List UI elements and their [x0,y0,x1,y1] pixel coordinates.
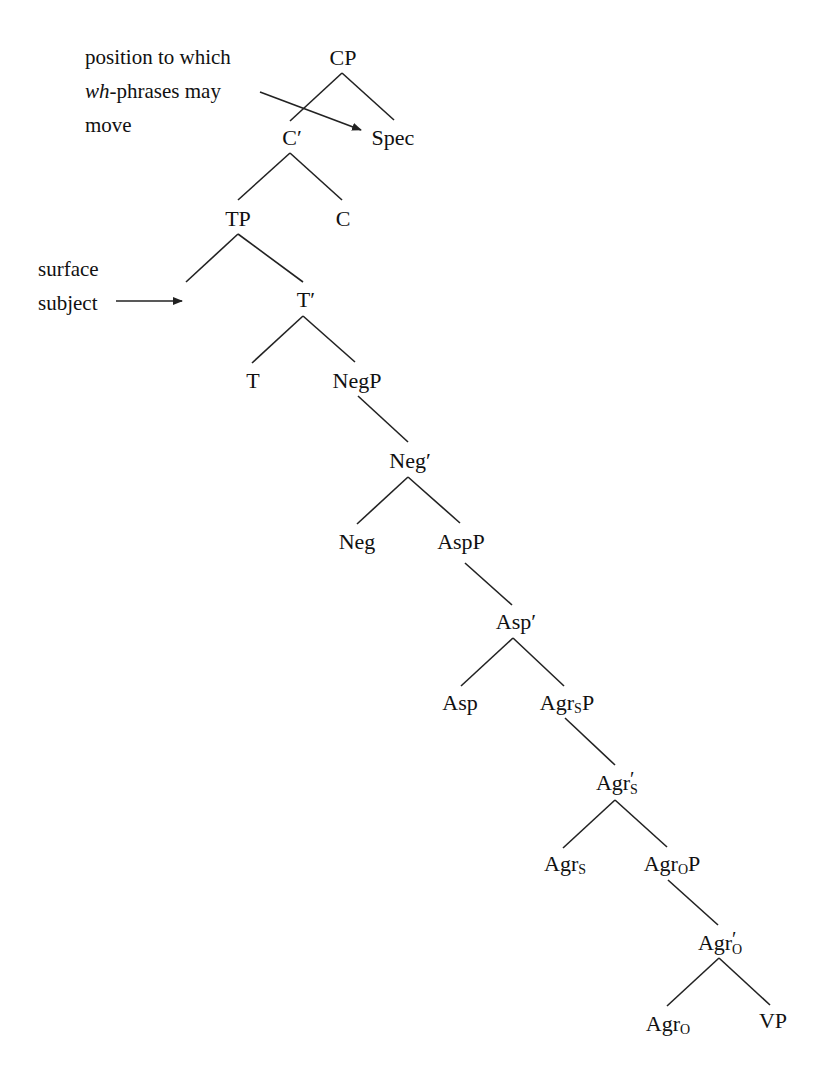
agrs-subscript: S [578,862,586,877]
agro-bar-subscript: O [732,943,742,957]
node-agro: AgrO [646,1013,690,1035]
node-neg-bar: Neg′ [389,450,430,472]
subject-annotation: surface subject [38,252,99,320]
node-aspp: AspP [437,531,485,553]
edge-agrobar-vp [719,958,770,1005]
edge-agrop-agrobar [668,880,718,925]
edge-negbar-neg [357,477,408,524]
edge-negbar-aspp [408,477,460,523]
node-agrs-p: AgrSP [540,692,594,714]
node-neg: Neg [339,531,376,553]
agrop-subscript: O [678,862,688,877]
node-agrs: AgrS [544,853,586,875]
edge-negp-negbar [358,396,408,442]
agro-bar-base: Agr [698,930,732,955]
edge-tp-tbar [238,234,303,282]
node-spec: Spec [372,127,415,149]
wh-annotation: position to which wh-phrases may move [85,40,231,142]
agro-subscript: O [680,1022,690,1037]
subject-annotation-line2: subject [38,286,99,320]
agrsp-tail: P [582,690,594,715]
edge-aspbar-asp [461,638,513,686]
wh-annotation-line1: position to which [85,40,231,74]
node-c: C [336,208,351,230]
wh-annotation-line3: move [85,108,231,142]
edge-agrsp-agrsbar [565,718,615,765]
wh-italic: wh [85,79,110,103]
edge-cbar-c [290,153,342,200]
edge-cbar-tp [238,153,290,200]
node-asp-bar: Asp′ [496,611,536,633]
tree-edges [0,0,829,1069]
node-vp: VP [759,1010,787,1032]
edge-tbar-t [252,316,303,363]
edge-tp-spec [186,234,238,282]
node-cp: CP [330,47,357,69]
agrs-bar-base: Agr [596,770,630,795]
agrs-bar-subscript: S [630,783,638,797]
node-agro-bar: Agr′O [698,932,742,954]
node-asp: Asp [442,692,477,714]
node-tp: TP [225,208,251,230]
node-agrs-bar: Agr′S [596,772,640,794]
agrsp-base: Agr [540,690,574,715]
node-agro-p: AgrOP [644,853,701,875]
edge-agrobar-agro [667,958,719,1006]
agrop-base: Agr [644,851,678,876]
subject-annotation-line1: surface [38,252,99,286]
node-c-bar: C′ [282,127,302,149]
agrsp-subscript: S [574,701,582,716]
wh-rest: -phrases may [110,79,221,103]
wh-arrow [260,92,361,130]
edge-aspbar-agrsp [513,638,564,686]
edge-tbar-negp [303,316,355,362]
agrop-tail: P [688,851,700,876]
node-t: T [246,370,259,392]
agrs-base: Agr [544,851,578,876]
edge-agrsbar-agrs [563,800,615,848]
agro-base: Agr [646,1011,680,1036]
node-t-bar: T′ [297,289,315,311]
wh-annotation-line2: wh-phrases may [85,74,231,108]
edge-agrsbar-agrop [615,800,667,847]
edge-aspp-aspbar [465,563,512,605]
node-negp: NegP [333,370,382,392]
edge-cp-spec [342,73,394,120]
